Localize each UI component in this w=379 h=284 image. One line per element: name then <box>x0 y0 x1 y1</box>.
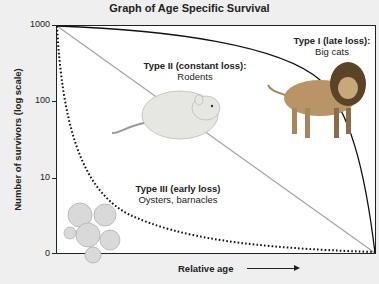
rat-illustration <box>112 91 220 139</box>
arrow-right-icon <box>247 268 297 269</box>
type3-label: Type III (early loss) <box>118 183 238 194</box>
type1-examples: Big cats <box>315 46 349 57</box>
lion-illustration <box>268 62 366 138</box>
type2-annotation: Type II (constant loss): Rodents <box>130 60 260 82</box>
y-tick-marks <box>52 26 56 254</box>
type3-annotation: Type III (early loss) Oysters, barnacles <box>118 183 238 205</box>
type2-label: Type II (constant loss): <box>130 60 260 71</box>
x-axis-label: Relative age <box>178 263 233 274</box>
type1-annotation: Type I (late loss): Big cats <box>282 35 379 57</box>
type1-label: Type I (late loss): <box>282 35 379 46</box>
type2-examples: Rodents <box>177 71 212 82</box>
type3-examples: Oysters, barnacles <box>138 194 217 205</box>
oysters-illustration <box>64 203 120 263</box>
